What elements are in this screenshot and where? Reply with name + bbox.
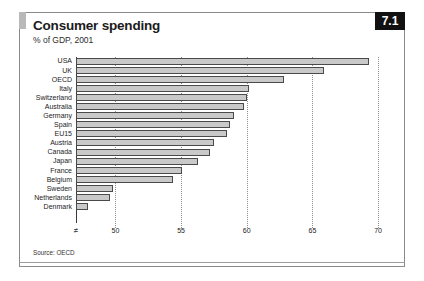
corner-tab-decoration bbox=[19, 12, 26, 29]
plot-area: USAUKOECDItalySwitzerlandAustraliaGerman… bbox=[76, 57, 386, 220]
bar bbox=[76, 167, 182, 174]
bar-row: Belgium bbox=[76, 175, 386, 184]
bar-row: Spain bbox=[76, 121, 386, 130]
x-tick-label: 65 bbox=[309, 227, 317, 234]
bars-group: USAUKOECDItalySwitzerlandAustraliaGerman… bbox=[76, 57, 386, 212]
bar bbox=[76, 94, 247, 101]
source-note: Source: OECD bbox=[33, 249, 75, 256]
bar-row: UK bbox=[76, 66, 386, 75]
bar-row: EU15 bbox=[76, 130, 386, 139]
x-tick-label: 70 bbox=[374, 227, 382, 234]
bar-row: Sweden bbox=[76, 184, 386, 193]
bar bbox=[76, 185, 113, 192]
source-divider bbox=[19, 262, 405, 263]
bar-row: Austria bbox=[76, 139, 386, 148]
bar-row: France bbox=[76, 166, 386, 175]
bar bbox=[76, 112, 234, 119]
x-tick-label: 55 bbox=[177, 227, 185, 234]
bar-row: USA bbox=[76, 57, 386, 66]
bar-row: Denmark bbox=[76, 203, 386, 212]
figure-number-badge: 7.1 bbox=[375, 12, 405, 30]
bar bbox=[76, 149, 210, 156]
bar bbox=[76, 139, 214, 146]
axis-break-icon: ≠ bbox=[74, 226, 78, 235]
bar bbox=[76, 103, 244, 110]
bar-row: Netherlands bbox=[76, 193, 386, 202]
bar-row: Canada bbox=[76, 148, 386, 157]
bar bbox=[76, 130, 227, 137]
bar bbox=[76, 158, 198, 165]
chart-title: Consumer spending bbox=[33, 18, 160, 33]
bar-row: OECD bbox=[76, 75, 386, 84]
bar-row: Australia bbox=[76, 102, 386, 111]
x-tick-label: 50 bbox=[112, 227, 120, 234]
bar-row: Switzerland bbox=[76, 93, 386, 102]
chart-figure: 7.1 Consumer spending % of GDP, 2001 USA… bbox=[0, 0, 424, 281]
bar bbox=[76, 67, 324, 74]
x-tick-label: 60 bbox=[243, 227, 251, 234]
bar bbox=[76, 176, 173, 183]
bar bbox=[76, 121, 230, 128]
bar bbox=[76, 85, 249, 92]
bar bbox=[76, 203, 88, 210]
bar bbox=[76, 76, 284, 83]
bar bbox=[76, 58, 369, 65]
category-label: Denmark bbox=[44, 202, 72, 212]
bar-row: Germany bbox=[76, 112, 386, 121]
chart-subtitle: % of GDP, 2001 bbox=[33, 35, 93, 45]
bar-row: Japan bbox=[76, 157, 386, 166]
bar bbox=[76, 194, 110, 201]
bar-row: Italy bbox=[76, 84, 386, 93]
